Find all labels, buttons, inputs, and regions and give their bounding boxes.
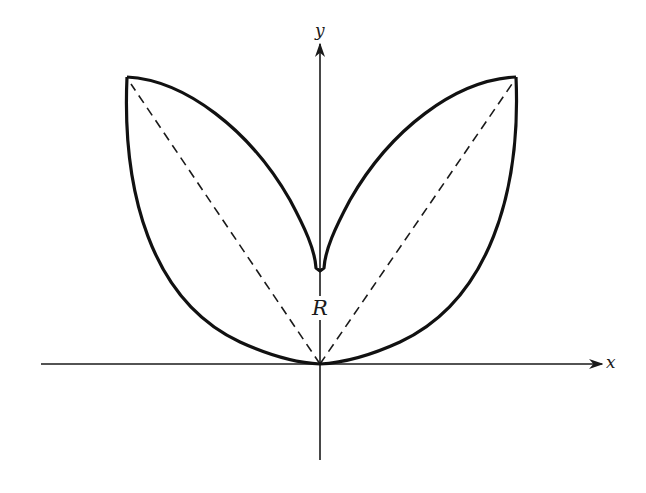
inner-boundary-curve (127, 77, 516, 271)
y-axis-label: y (315, 20, 325, 40)
region-label: R (311, 296, 329, 320)
diagram-canvas (0, 0, 646, 493)
dashed-segment-left (131, 84, 320, 364)
outer-boundary-curve (126, 77, 516, 364)
dashed-segment-right (320, 84, 512, 364)
x-axis-label: x (606, 352, 616, 372)
